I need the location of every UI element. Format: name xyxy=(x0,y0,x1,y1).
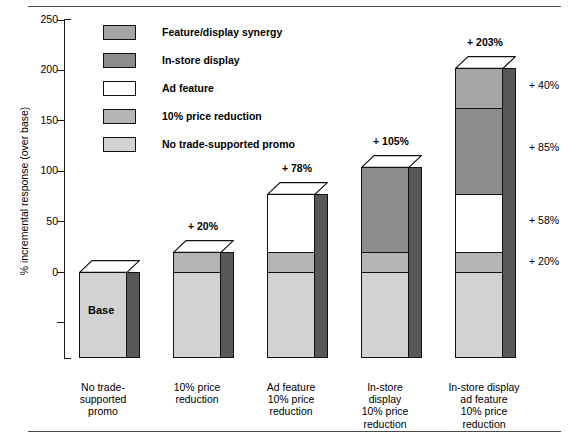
bar-1-side-face xyxy=(126,272,140,358)
x-label-line: Ad feature xyxy=(243,381,339,393)
bar-4-segment-price-reduction xyxy=(361,252,409,272)
x-label-ad-feature-price-reduction: Ad feature 10% price reduction xyxy=(243,381,339,418)
y-tick-label-100: 100 xyxy=(4,165,58,176)
bar-1-base-label: Base xyxy=(88,304,114,316)
y-tick-label-250: 250 xyxy=(4,14,58,25)
y-tick-150 xyxy=(57,120,65,121)
bar-3-segment-base xyxy=(267,272,315,358)
x-label-line: 10% price xyxy=(243,393,339,405)
x-label-in-store-display-ad-feature-price-reduction: In-store display ad feature 10% price re… xyxy=(429,381,539,430)
legend-swatch-feature-display-synergy xyxy=(103,25,136,40)
y-tick-label-50: 50 xyxy=(4,216,58,227)
x-label-line: supported xyxy=(55,393,151,405)
x-label-no-trade-supported-promo: No trade- supported promo xyxy=(55,381,151,418)
bar-4-side-face xyxy=(408,167,422,358)
y-tick-200 xyxy=(57,70,65,71)
bar-4-segment-in-store-display xyxy=(361,167,409,252)
top-divider-rule xyxy=(28,6,561,7)
legend-swatch-in-store-display xyxy=(103,53,136,68)
bar-5-segment-feature-display-synergy xyxy=(455,68,503,108)
y-tick-label-150: 150 xyxy=(4,115,58,126)
bar-4-front-face xyxy=(361,167,409,358)
bar-5-front-face xyxy=(455,68,503,358)
x-label-line: reduction xyxy=(337,418,433,430)
x-label-line: In-store xyxy=(337,381,433,393)
x-label-line: 10% price xyxy=(149,381,245,393)
y-tick-minus50 xyxy=(57,322,65,323)
bar-4-total-label: + 105% xyxy=(360,135,422,147)
annotation-ad-feature: + 58% xyxy=(529,214,559,226)
bottom-divider-rule xyxy=(28,431,561,432)
bar-3-side-face xyxy=(314,194,328,358)
legend-label-feature-display-synergy: Feature/display synergy xyxy=(162,26,282,38)
bar-2-total-label: + 20% xyxy=(172,220,234,232)
x-label-line: 10% price xyxy=(429,405,539,417)
bar-5-segment-price-reduction xyxy=(455,252,503,272)
bar-2-side-face xyxy=(220,252,234,358)
legend-label-price-reduction: 10% price reduction xyxy=(162,110,262,122)
annotation-in-store-display: + 85% xyxy=(529,141,559,153)
bar-3-segment-price-reduction xyxy=(267,252,315,272)
legend-label-no-trade-promo: No trade-supported promo xyxy=(162,138,295,150)
y-axis-top-cap xyxy=(64,19,71,20)
x-label-line: reduction xyxy=(429,418,539,430)
chart-legend: Feature/display synergy In-store display… xyxy=(103,19,295,159)
legend-swatch-ad-feature xyxy=(103,81,136,96)
legend-item-feature-display-synergy: Feature/display synergy xyxy=(103,19,295,45)
x-label-line: display xyxy=(337,393,433,405)
x-label-line: No trade- xyxy=(55,381,151,393)
legend-label-ad-feature: Ad feature xyxy=(162,82,214,94)
x-label-line: reduction xyxy=(149,393,245,405)
bar-3-front-face xyxy=(267,194,315,358)
legend-swatch-price-reduction xyxy=(103,109,136,124)
bar-2-front-face xyxy=(173,252,221,358)
bar-4-segment-base xyxy=(361,272,409,358)
bar-5-side-face xyxy=(502,68,516,358)
legend-item-price-reduction: 10% price reduction xyxy=(103,103,295,129)
y-tick-label-200: 200 xyxy=(4,64,58,75)
x-label-line: In-store display xyxy=(429,381,539,393)
bar-5-segment-in-store-display xyxy=(455,108,503,194)
chart-figure: RESPONSE TO TRADE PROMOTIONS % increment… xyxy=(0,0,577,442)
y-axis-bottom-cap xyxy=(64,358,71,359)
x-label-line: 10% price xyxy=(337,405,433,417)
bar-5-segment-ad-feature xyxy=(455,194,503,252)
y-tick-250 xyxy=(57,20,65,21)
bar-3-segment-ad-feature xyxy=(267,194,315,252)
y-tick-100 xyxy=(57,171,65,172)
annotation-feature-display-synergy: + 40% xyxy=(529,79,559,91)
y-tick-label-0: 0 xyxy=(4,267,58,278)
y-tick-50 xyxy=(57,221,65,222)
x-label-line: reduction xyxy=(243,405,339,417)
bar-2-segment-price-reduction xyxy=(173,252,221,272)
x-label-line: ad feature xyxy=(429,393,539,405)
bar-5-segment-base xyxy=(455,272,503,358)
bar-3-total-label: + 78% xyxy=(266,162,328,174)
x-label-in-store-display-price-reduction: In-store display 10% price reduction xyxy=(337,381,433,430)
annotation-price-reduction: + 20% xyxy=(529,255,559,267)
legend-item-no-trade-promo: No trade-supported promo xyxy=(103,131,295,157)
legend-label-in-store-display: In-store display xyxy=(162,54,240,66)
legend-swatch-no-trade-promo xyxy=(103,137,136,152)
x-label-10-percent-price-reduction: 10% price reduction xyxy=(149,381,245,405)
legend-item-in-store-display: In-store display xyxy=(103,47,295,73)
bar-2-segment-base xyxy=(173,272,221,358)
legend-item-ad-feature: Ad feature xyxy=(103,75,295,101)
x-label-line: promo xyxy=(55,405,151,417)
bar-5-total-label: + 203% xyxy=(454,36,516,48)
y-tick-0 xyxy=(57,272,65,273)
